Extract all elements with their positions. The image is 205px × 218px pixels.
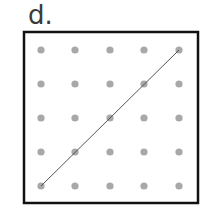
grid-dot [175,114,182,121]
diagonal-segment [41,50,179,186]
grid-dot [37,80,44,87]
grid-dot [37,114,44,121]
grid-dot [106,182,113,189]
grid-dot [106,80,113,87]
grid-dot [175,80,182,87]
grid-dot [106,148,113,155]
grid-dot [175,148,182,155]
grid-dot [71,182,78,189]
grid-dot [140,182,147,189]
grid-dot [37,46,44,53]
grid-dot [71,114,78,121]
grid-dot [140,114,147,121]
grid-dot [175,182,182,189]
dot-grid-diagram [0,0,205,218]
grid-dot [140,46,147,53]
grid-dot [37,148,44,155]
grid-dot [71,80,78,87]
grid-dot [106,46,113,53]
grid-dot [71,46,78,53]
grid-dot [140,148,147,155]
